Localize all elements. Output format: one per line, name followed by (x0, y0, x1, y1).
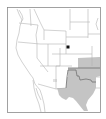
range-map (0, 0, 106, 119)
locality-marker (67, 46, 70, 49)
minor-range-patch (53, 79, 57, 82)
